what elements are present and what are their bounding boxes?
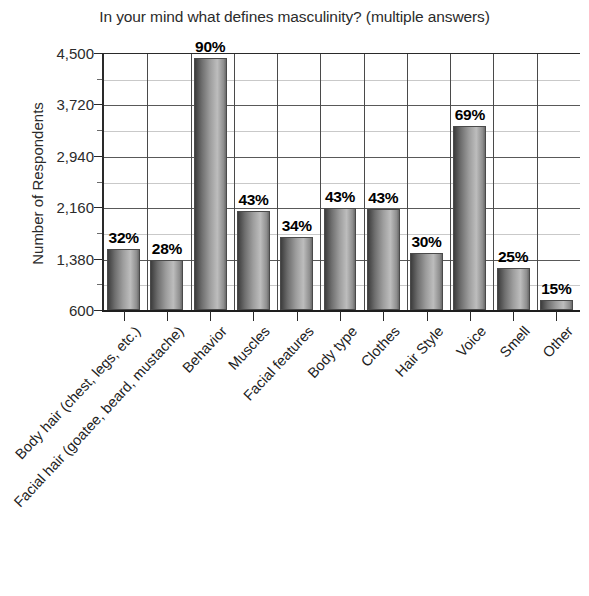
gridline-vertical bbox=[364, 54, 365, 311]
bar bbox=[237, 211, 270, 310]
gridline-minor bbox=[104, 131, 580, 132]
bar-value-label: 15% bbox=[531, 280, 582, 298]
bar-value-label: 30% bbox=[401, 233, 452, 251]
x-axis-category-label-anchor: Body hair (chest, legs, etc.) bbox=[131, 323, 132, 324]
gridline-vertical bbox=[191, 54, 192, 311]
bar-value-label: 90% bbox=[185, 38, 236, 56]
gridline-vertical bbox=[493, 54, 494, 311]
x-axis-tick-mark bbox=[253, 311, 254, 321]
y-axis-tick-labels: 6001,3802,1602,9403,7204,500 bbox=[22, 0, 94, 596]
x-axis-category-label-anchor: Facial features bbox=[304, 323, 305, 324]
x-axis-category-label: Smell bbox=[496, 323, 532, 360]
x-axis-category-label-anchor: Body type bbox=[347, 323, 348, 324]
bar bbox=[410, 253, 443, 310]
bar-value-label: 69% bbox=[444, 106, 495, 124]
x-axis-tick-mark bbox=[556, 311, 557, 321]
y-axis-tick-label: 1,380 bbox=[30, 250, 94, 267]
bar bbox=[540, 300, 573, 310]
y-axis-tick-label: 3,720 bbox=[30, 96, 94, 113]
bar bbox=[453, 126, 486, 310]
x-axis-tick-mark bbox=[427, 311, 428, 321]
bar bbox=[194, 58, 227, 310]
gridline-major bbox=[104, 157, 580, 158]
x-axis-category-label-anchor: Behavior bbox=[217, 323, 218, 324]
x-axis-category-label-anchor: Voice bbox=[477, 323, 478, 324]
x-axis-tick-mark bbox=[470, 311, 471, 321]
x-axis-category-label-anchor: Hair Style bbox=[434, 323, 435, 324]
x-axis-category-label: Other bbox=[540, 323, 576, 360]
bar-chart: In your mind what defines masculinity? (… bbox=[0, 0, 589, 596]
y-axis-tick-label: 2,940 bbox=[30, 147, 94, 164]
x-axis-tick-mark bbox=[383, 311, 384, 321]
bar bbox=[367, 209, 400, 310]
gridline-major bbox=[104, 105, 580, 106]
x-axis-category-label-anchor: Clothes bbox=[390, 323, 391, 324]
x-axis-category-label-anchor: Muscles bbox=[260, 323, 261, 324]
bar bbox=[107, 249, 140, 310]
gridline-vertical bbox=[277, 54, 278, 311]
gridline-vertical bbox=[234, 54, 235, 311]
x-axis-tick-mark bbox=[167, 311, 168, 321]
bar bbox=[324, 208, 357, 310]
x-axis-line bbox=[102, 310, 580, 312]
x-axis-category-label-anchor: Smell bbox=[520, 323, 521, 324]
bar-value-label: 43% bbox=[358, 189, 409, 207]
x-axis-category-label-anchor: Facial hair (goatee, beard, mustache) bbox=[174, 323, 175, 324]
bar bbox=[497, 268, 530, 310]
gridline-vertical bbox=[320, 54, 321, 311]
x-axis-tick-mark bbox=[124, 311, 125, 321]
x-axis-category-label-anchor: Other bbox=[563, 323, 564, 324]
x-axis-tick-mark bbox=[513, 311, 514, 321]
y-axis-tick-label: 600 bbox=[30, 302, 94, 319]
y-axis-tick-label: 2,160 bbox=[30, 199, 94, 216]
gridline-vertical bbox=[147, 54, 148, 311]
bar bbox=[150, 260, 183, 310]
bar bbox=[280, 237, 313, 310]
y-axis-tick-label: 4,500 bbox=[30, 45, 94, 62]
gridline-vertical bbox=[407, 54, 408, 311]
gridline-vertical bbox=[537, 54, 538, 311]
bar-value-label: 43% bbox=[228, 191, 279, 209]
gridline-vertical bbox=[450, 54, 451, 311]
bar-value-label: 25% bbox=[487, 248, 538, 266]
gridline-minor bbox=[104, 80, 580, 81]
gridline-minor bbox=[104, 183, 580, 184]
bar-value-label: 34% bbox=[271, 217, 322, 235]
x-axis-tick-mark bbox=[340, 311, 341, 321]
x-axis-tick-mark bbox=[210, 311, 211, 321]
x-axis-tick-mark bbox=[297, 311, 298, 321]
x-axis-category-label: Behavior bbox=[179, 323, 230, 376]
x-axis-category-label: Voice bbox=[454, 323, 490, 360]
bar-value-label: 28% bbox=[141, 240, 192, 258]
